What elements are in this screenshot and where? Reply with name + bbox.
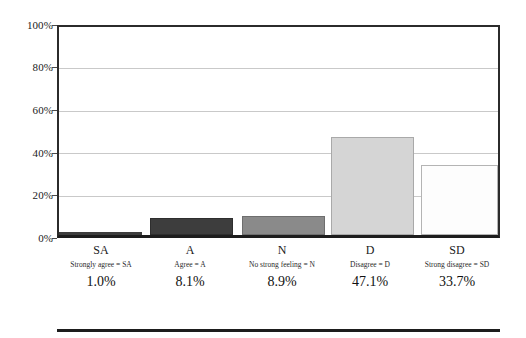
category-column-A: A Agree = A 8.1% — [140, 243, 240, 291]
y-tick-label: 60% — [3, 105, 53, 116]
y-tickmark — [52, 238, 57, 239]
plot-area — [57, 25, 500, 238]
category-value: 8.9% — [232, 272, 332, 291]
y-tick-label: 0% — [3, 233, 53, 244]
category-column-SD: SD Strong disagree = SD 33.7% — [407, 243, 507, 291]
category-column-N: N No strong feeling = N 8.9% — [232, 243, 332, 291]
category-labels: SA Strongly agree = SA 1.0% A Agree = A … — [57, 243, 500, 303]
bar-SA — [59, 232, 142, 235]
category-column-SA: SA Strongly agree = SA 1.0% — [51, 243, 151, 291]
category-abbr: SD — [407, 243, 507, 258]
y-tick-label: 80% — [3, 62, 53, 73]
bar-D — [331, 137, 414, 235]
category-value: 8.1% — [140, 272, 240, 291]
y-tick-label: 20% — [3, 190, 53, 201]
y-tick-label: 100% — [3, 20, 53, 31]
category-key: Agree = A — [140, 258, 240, 272]
bar-SD — [421, 165, 498, 235]
category-key: Strong disagree = SD — [407, 258, 507, 272]
bar-A — [150, 218, 233, 235]
category-key: No strong feeling = N — [232, 258, 332, 272]
gridline-40 — [59, 153, 498, 154]
gridline-80 — [59, 68, 498, 69]
category-abbr: SA — [51, 243, 151, 258]
bar-N — [242, 216, 325, 235]
category-value: 47.1% — [320, 272, 420, 291]
category-value: 33.7% — [407, 272, 507, 291]
category-key: Strongly agree = SA — [51, 258, 151, 272]
category-abbr: N — [232, 243, 332, 258]
bar-chart-figure: 100% 80% 60% 40% 20% 0% SA Strongly agre — [0, 0, 526, 338]
y-axis-labels: 100% 80% 60% 40% 20% 0% — [0, 0, 53, 338]
category-abbr: D — [320, 243, 420, 258]
category-abbr: A — [140, 243, 240, 258]
y-tick-label: 40% — [3, 148, 53, 159]
bottom-divider — [57, 329, 500, 332]
gridline-60 — [59, 111, 498, 112]
category-column-D: D Disagree = D 47.1% — [320, 243, 420, 291]
category-key: Disagree = D — [320, 258, 420, 272]
category-value: 1.0% — [51, 272, 151, 291]
